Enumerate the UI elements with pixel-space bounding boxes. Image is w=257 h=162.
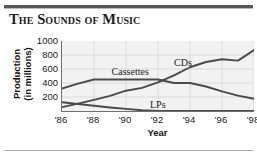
footer-rule	[4, 150, 253, 151]
x-tick-label: '86	[48, 114, 74, 126]
y-tick-label: 800	[30, 50, 58, 60]
series-label-cds: CDs	[174, 57, 192, 68]
x-axis-line	[61, 111, 254, 112]
y-tick-label: 400	[30, 78, 58, 88]
chart-figure: The Sounds of Music Production (in milli…	[0, 0, 257, 162]
series-label-lps: LPs	[150, 99, 166, 110]
x-tick-label: '94	[176, 114, 202, 126]
x-axis-tick-labels: '86'88'90'92'94'96'98	[0, 114, 257, 128]
y-tick-label: 1000	[30, 36, 58, 46]
y-tick-label: 200	[30, 92, 58, 102]
x-tick-label: '88	[80, 114, 106, 126]
x-tick-label: '90	[112, 114, 138, 126]
x-axis-title: Year	[61, 127, 254, 139]
series-label-cassettes: Cassettes	[112, 66, 149, 77]
x-tick-label: '92	[144, 114, 170, 126]
x-tick-label: '98	[240, 114, 257, 126]
y-axis-tick-labels: 1000800600400200	[28, 0, 58, 162]
y-axis-title-line1: Production	[11, 49, 22, 99]
y-tick-label: 600	[30, 64, 58, 74]
plot-area: Cassettes CDs LPs	[61, 41, 254, 111]
x-tick-label: '96	[208, 114, 234, 126]
